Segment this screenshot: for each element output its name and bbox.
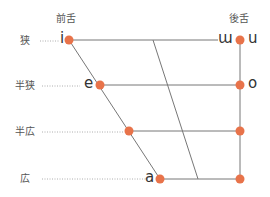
dot-u <box>236 36 245 45</box>
vowel-e: e <box>84 76 93 91</box>
dotted-guides <box>40 41 148 179</box>
dot-open-mid-front <box>125 127 134 136</box>
vowel-dots <box>65 36 245 184</box>
trapezoid-lines <box>69 40 240 179</box>
front-edge <box>69 40 160 179</box>
vowel-o: o <box>248 76 257 91</box>
dot-a <box>156 175 165 184</box>
vowel-i: i <box>60 31 64 46</box>
height-label-open: 広 <box>20 174 30 184</box>
vowel-unrounded-u: ɯ <box>218 31 233 46</box>
dot-open-back <box>236 175 245 184</box>
header-front: 前舌 <box>56 14 76 24</box>
height-label-close: 狭 <box>20 36 30 46</box>
height-label-open-mid: 半広 <box>15 127 35 137</box>
dot-o <box>236 81 245 90</box>
height-label-close-mid: 半狭 <box>15 81 35 91</box>
dot-i <box>65 36 74 45</box>
vowel-u: u <box>248 31 258 46</box>
header-back: 後舌 <box>229 14 249 24</box>
central-line <box>153 40 198 179</box>
vowel-a: a <box>145 170 154 185</box>
dot-open-mid-back <box>236 127 245 136</box>
dot-e <box>96 81 105 90</box>
